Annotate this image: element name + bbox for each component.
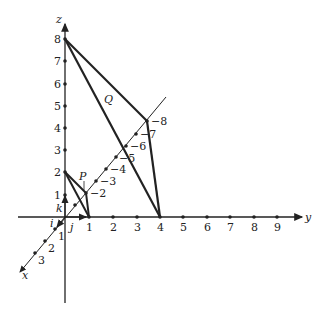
y-tick-1: 1 (86, 221, 93, 234)
y-tick-9: 9 (274, 221, 281, 234)
z-tick-7: 7 (54, 55, 61, 68)
x-tick-neg7: −7 (140, 128, 156, 141)
x-tick-2: 2 (48, 242, 55, 255)
x-tick-neg8: −8 (151, 115, 167, 128)
label-p: P (78, 170, 87, 183)
z-tick-5: 5 (54, 100, 61, 113)
k-label: k (56, 202, 63, 215)
coordinate-diagram: 1 2 3 4 5 6 7 8 1 2 3 4 5 6 7 8 9 1 2 3 … (0, 0, 327, 321)
x-tick-1: 1 (58, 230, 65, 243)
y-tick-3: 3 (134, 221, 141, 234)
z-tick-1: 1 (54, 189, 61, 202)
y-tick-7: 7 (227, 221, 234, 234)
i-vector (57, 217, 65, 227)
x-tick-neg2: −2 (90, 187, 106, 200)
x-tick-neg5: −5 (119, 152, 135, 165)
y-tick-8: 8 (251, 221, 258, 234)
x-axis-label: x (22, 269, 29, 282)
x-tick-neg6: −6 (130, 140, 146, 153)
y-tick-4: 4 (157, 221, 164, 234)
z-tick-2: 2 (54, 166, 61, 179)
z-tick-3: 3 (54, 144, 61, 157)
i-label: i (50, 217, 54, 230)
y-axis-label: y (304, 211, 312, 224)
z-axis-label: z (55, 13, 62, 26)
y-tick-2: 2 (110, 221, 117, 234)
x-tick-neg3: −3 (100, 175, 116, 188)
z-tick-6: 6 (54, 78, 61, 91)
x-axis (20, 97, 166, 272)
label-q: Q (104, 93, 113, 106)
z-tick-8: 8 (54, 33, 61, 46)
y-tick-6: 6 (204, 221, 211, 234)
y-tick-5: 5 (180, 221, 187, 234)
x-tick-3: 3 (38, 254, 45, 267)
j-label: j (67, 221, 74, 234)
z-tick-4: 4 (54, 122, 61, 135)
